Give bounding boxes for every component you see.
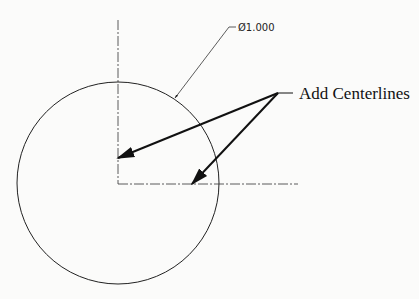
drawing-canvas: Ø1.000 Add Centerlines: [0, 0, 419, 299]
add-centerlines-callout[interactable]: Add Centerlines: [118, 84, 410, 184]
diameter-dimension[interactable]: Ø1.000: [175, 22, 275, 98]
dimension-leader: [175, 27, 236, 98]
callout-arrow-horizontal-centerline: [192, 93, 278, 184]
callout-label: Add Centerlines: [299, 84, 410, 103]
diameter-label: Ø1.000: [238, 22, 275, 33]
callout-arrow-vertical-centerline: [118, 93, 278, 158]
